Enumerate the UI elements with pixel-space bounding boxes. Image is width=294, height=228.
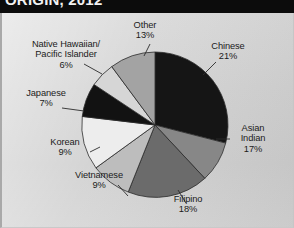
pie-label-korean-name: Korean xyxy=(50,137,79,147)
pie-label-vietnamese: Vietnamese 9% xyxy=(63,170,135,191)
pie-label-filipino-name: Filipino xyxy=(174,194,203,204)
pie-label-asian-indian-name-line1: Asian xyxy=(242,123,265,133)
pie-label-asian-indian-percent: 17% xyxy=(229,144,277,154)
pie-label-nhpi-line2: Pacific Islander xyxy=(14,49,118,59)
pie-label-vietnamese-name: Vietnamese xyxy=(75,170,123,180)
pie-chart-figure: ORIGIN, 2012 xyxy=(0,0,294,228)
pie-label-chinese-name: Chinese xyxy=(211,41,244,51)
pie-label-filipino-percent: 18% xyxy=(160,204,216,214)
pie-label-asian-indian-name-line2: Indian xyxy=(229,133,277,143)
pie-label-nhpi-percent: 6% xyxy=(14,60,118,70)
pie-label-chinese: Chinese 21% xyxy=(200,41,256,62)
pie-label-korean-percent: 9% xyxy=(40,147,90,157)
pie-label-japanese: Japanese 7% xyxy=(17,88,75,109)
pie-label-native-hawaiian-pacific-islander: Native Hawaiian/ Pacific Islander 6% xyxy=(14,39,118,70)
leader-line-chinese xyxy=(203,62,216,75)
pie-label-other-name: Other xyxy=(134,20,157,30)
pie-label-chinese-percent: 21% xyxy=(200,51,256,61)
pie-label-japanese-percent: 7% xyxy=(17,98,75,108)
pie-label-nhpi-line1: Native Hawaiian/ xyxy=(32,39,100,49)
pie-label-other: Other 13% xyxy=(118,20,172,41)
pie-label-vietnamese-percent: 9% xyxy=(63,180,135,190)
pie-label-filipino: Filipino 18% xyxy=(160,194,216,215)
pie-label-japanese-name: Japanese xyxy=(26,88,66,98)
pie-label-korean: Korean 9% xyxy=(40,137,90,158)
pie-label-other-percent: 13% xyxy=(118,30,172,40)
pie-label-asian-indian: Asian Indian 17% xyxy=(229,123,277,154)
